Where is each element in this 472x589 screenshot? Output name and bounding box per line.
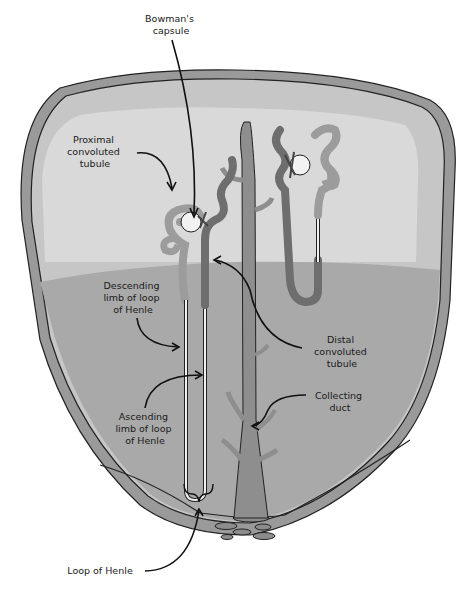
nephron-diagram: Bowman's capsule Proximal convoluted tub… — [0, 0, 472, 589]
label-loop-of-henle: Loop of Henle — [67, 565, 133, 576]
inner-cortex-band — [42, 107, 418, 262]
label-bowmans-capsule: Bowman's capsule — [145, 13, 197, 36]
